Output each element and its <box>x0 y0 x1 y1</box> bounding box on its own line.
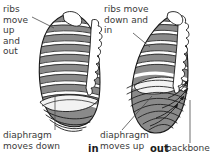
label-ribs-move-up-and-out: ribs move up and out <box>3 4 43 57</box>
label-backbone: backbone <box>166 143 217 154</box>
label-ribs-move-down-and-in: ribs move down and in <box>104 4 166 36</box>
label-diaphragm-moves-down: diaphragm moves down <box>3 130 85 151</box>
breathing-diagram: ribs move up and out ribs move down and … <box>0 0 217 159</box>
caption-out: out <box>150 143 169 154</box>
caption-in: in <box>88 143 99 154</box>
